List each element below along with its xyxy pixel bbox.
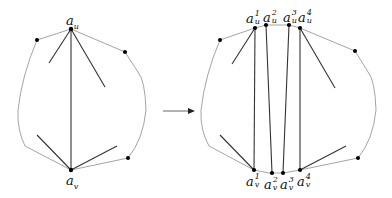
- edge-au1-av1: [254, 28, 255, 170]
- half-edge: [232, 28, 255, 64]
- half-edge: [49, 29, 71, 63]
- vertex: [356, 156, 360, 160]
- vertex-au4: [298, 26, 302, 30]
- vertex-splitting-diagram: au av a1u a2u a3u a4u a1v a2v a3v a4v: [0, 0, 392, 198]
- label-au1: a1u: [246, 11, 260, 27]
- edge-au2-av2: [266, 25, 272, 173]
- half-edge: [220, 135, 254, 170]
- vertex: [123, 50, 127, 54]
- arrowhead-icon: [188, 108, 195, 114]
- transformation-arrow: [163, 108, 195, 114]
- label-au3: a3u: [283, 10, 297, 26]
- label-av1: a1v: [246, 174, 260, 190]
- edge-au3-av3: [283, 25, 289, 173]
- label-au4: a4u: [298, 10, 312, 26]
- half-edge: [300, 146, 346, 170]
- label-au2: a2u: [263, 10, 277, 26]
- vertex: [126, 156, 130, 160]
- outer-face-boundary: [18, 29, 146, 170]
- half-edge: [71, 146, 117, 170]
- vertex-av4: [298, 168, 302, 172]
- vertex-av3: [281, 171, 285, 175]
- half-edge: [37, 135, 71, 170]
- right-graph: [201, 23, 376, 175]
- half-edge: [300, 28, 335, 88]
- label-av: av: [66, 174, 78, 191]
- half-edge: [71, 29, 105, 87]
- label-av2: a2v: [264, 177, 278, 193]
- vertex-av: [69, 168, 73, 172]
- vertex: [218, 38, 222, 42]
- label-av4: a4v: [297, 174, 311, 190]
- diagram-canvas: [0, 0, 392, 198]
- vertex: [353, 49, 357, 53]
- vertex: [35, 38, 39, 42]
- left-graph: [18, 27, 146, 172]
- label-av3: a3v: [280, 177, 294, 193]
- label-au: au: [66, 14, 79, 31]
